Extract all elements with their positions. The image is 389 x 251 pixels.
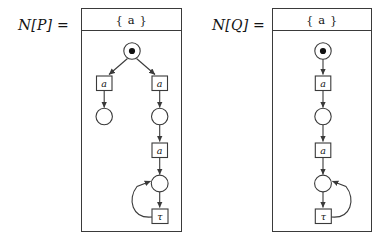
- transition-tau-label-p: τ: [157, 211, 163, 222]
- script-n-p: N: [18, 16, 31, 34]
- arc-p0-to-tleft: [109, 59, 128, 75]
- place-right-p: [152, 108, 168, 124]
- panel-body-q: a a τ: [273, 31, 371, 231]
- petri-net-panel-p: { a } a a: [81, 8, 182, 232]
- place-middle-q: [315, 108, 331, 124]
- place-deadend-p: [96, 108, 112, 124]
- petri-net-graph-q: a a τ: [273, 31, 373, 233]
- place-loop-q: [315, 175, 332, 192]
- equation-label-q: N[Q] =: [212, 16, 265, 34]
- figure-root: N[P] = { a } a: [0, 0, 389, 251]
- transition-tau-label-q: τ: [321, 211, 327, 222]
- token-initial-p: [129, 48, 135, 54]
- panel-header-label-p: { a }: [116, 13, 148, 27]
- script-n-q: N: [212, 16, 225, 34]
- arc-tau-feedback-p: [132, 181, 152, 217]
- equation-label-p: N[P] =: [18, 16, 69, 34]
- panel-header-p: { a }: [82, 9, 181, 31]
- bracket-q: [Q] =: [225, 17, 265, 33]
- petri-net-panel-q: { a } a: [272, 8, 372, 232]
- panel-body-p: a a a: [82, 31, 181, 231]
- arc-tau-feedback-q: [331, 181, 351, 217]
- petri-net-graph-p: a a a: [82, 31, 183, 233]
- transition-a-left-label-p: a: [101, 78, 107, 89]
- token-initial-q: [320, 48, 326, 54]
- panel-header-label-q: { a }: [306, 13, 338, 27]
- arc-p0-to-tright: [137, 59, 156, 75]
- panel-header-q: { a }: [273, 9, 371, 31]
- transition-a-second-label-q: a: [320, 145, 326, 156]
- place-loop-p: [151, 175, 168, 192]
- transition-a-right-label-p: a: [157, 78, 163, 89]
- bracket-p: [P] =: [31, 17, 69, 33]
- transition-a-mid-label-p: a: [157, 145, 163, 156]
- transition-a-first-label-q: a: [320, 78, 326, 89]
